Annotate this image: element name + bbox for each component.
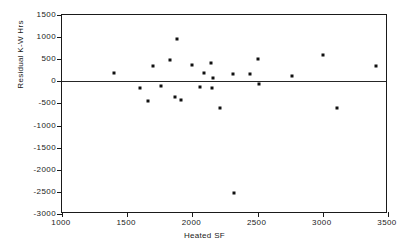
data-point	[191, 63, 194, 66]
y-tick-mark	[57, 81, 62, 82]
data-point	[160, 85, 163, 88]
x-tick-label: 2000	[182, 218, 201, 227]
y-tick-label: -1000	[34, 120, 56, 129]
y-tick-mark	[57, 192, 62, 193]
y-tick-mark	[57, 103, 62, 104]
y-tick-mark	[57, 59, 62, 60]
data-point	[113, 72, 116, 75]
data-point	[248, 73, 251, 76]
x-tick-label: 3500	[377, 218, 396, 227]
x-tick-label: 1500	[116, 218, 135, 227]
data-point	[256, 58, 259, 61]
y-tick-label: 1500	[37, 10, 56, 19]
x-tick-label: 3000	[312, 218, 331, 227]
data-point	[321, 54, 324, 57]
data-point	[152, 64, 155, 67]
y-tick-label: -500	[38, 98, 56, 107]
y-tick-label: -1500	[34, 142, 56, 151]
data-point	[169, 58, 172, 61]
data-point	[218, 106, 221, 109]
data-point	[210, 87, 213, 90]
x-tick-labels: 100015002000250030003500	[61, 216, 387, 230]
data-point	[290, 74, 293, 77]
data-point	[176, 38, 179, 41]
data-point	[233, 191, 236, 194]
data-point	[231, 73, 234, 76]
x-tick-mark	[388, 212, 389, 217]
x-axis-title: Heated SF	[0, 231, 409, 240]
x-tick-label: 2500	[247, 218, 266, 227]
y-tick-mark	[57, 126, 62, 127]
data-point	[179, 98, 182, 101]
y-tick-labels: 150010005000-500-1000-1500-2000-2500-300…	[0, 0, 56, 252]
data-point	[147, 99, 150, 102]
y-tick-label: 0	[51, 76, 56, 85]
data-point	[209, 61, 212, 64]
data-point	[203, 72, 206, 75]
y-tick-label: 1000	[37, 32, 56, 41]
y-tick-label: -2500	[34, 186, 56, 195]
y-tick-mark	[57, 37, 62, 38]
x-tick-label: 1000	[51, 218, 70, 227]
zero-reference-line	[62, 81, 386, 82]
data-point	[212, 76, 215, 79]
data-point	[336, 107, 339, 110]
data-point	[174, 95, 177, 98]
y-tick-label: -2000	[34, 164, 56, 173]
plot-area	[62, 15, 386, 212]
y-tick-mark	[57, 148, 62, 149]
y-tick-label: 500	[41, 54, 56, 63]
y-axis-title: Residual K-W Hrs	[16, 0, 25, 125]
scatter-chart-figure: 150010005000-500-1000-1500-2000-2500-300…	[0, 0, 409, 252]
plot-frame	[61, 14, 387, 213]
data-point	[257, 83, 260, 86]
data-point	[375, 65, 378, 68]
y-tick-mark	[57, 170, 62, 171]
data-point	[139, 86, 142, 89]
data-point	[199, 85, 202, 88]
y-tick-label: -3000	[34, 209, 56, 218]
y-tick-mark	[57, 15, 62, 16]
